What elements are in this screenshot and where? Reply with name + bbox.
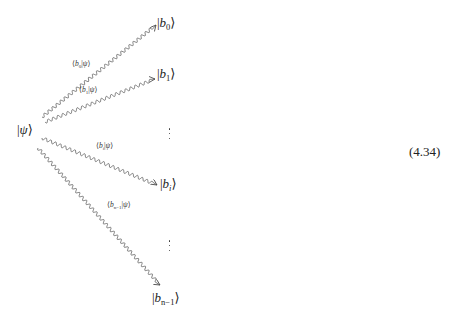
- vertical-ellipsis-lower: [168, 240, 171, 254]
- ket-bn-1: |bn−1⟩: [152, 291, 179, 307]
- arrow-psi-to-bn-1: [38, 148, 160, 285]
- arrow-psi-to-b1: [45, 79, 155, 123]
- wavy-arrows: [0, 0, 455, 318]
- ket-b0: |b0⟩: [157, 16, 175, 32]
- ket-b1: |b1⟩: [157, 67, 175, 83]
- coef-bn-1-psi: ⟨bn−1|ψ⟩: [107, 201, 131, 210]
- coef-bi-psi: ⟨bi|ψ⟩: [96, 142, 113, 151]
- equation-number: (4.34): [409, 145, 440, 158]
- ket-bi: |bi⟩: [160, 177, 177, 193]
- arrow-psi-to-b0: [42, 25, 156, 118]
- coef-b0-psi: ⟨b0|ψ⟩: [72, 60, 90, 69]
- coef-b1-psi: ⟨b1|ψ⟩: [79, 86, 97, 95]
- ket-psi: |ψ⟩: [17, 123, 33, 136]
- vertical-ellipsis-upper: [168, 128, 171, 142]
- equation-figure: |ψ⟩ |b0⟩ |b1⟩ |bi⟩ |bn−1⟩ ⟨b0|ψ⟩ ⟨b1|ψ⟩ …: [0, 0, 455, 318]
